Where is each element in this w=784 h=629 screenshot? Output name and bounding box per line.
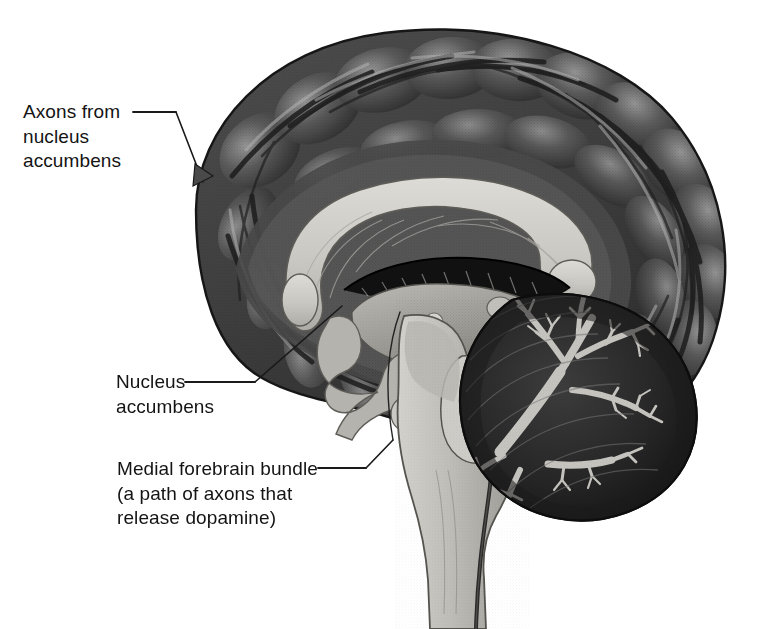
label-nucleus-accumbens: Nucleus accumbens	[116, 370, 214, 419]
label-axons-from-nucleus-accumbens: Axons from nucleus accumbens	[23, 100, 121, 174]
brain-illustration	[0, 0, 784, 629]
brain-diagram-figure: Axons from nucleus accumbens Nucleus acc…	[0, 0, 784, 629]
leader-axons	[133, 112, 213, 186]
label-medial-forebrain-bundle: Medial forebrain bundle (a path of axons…	[117, 457, 318, 531]
leader-medial-forebrain-bundle	[318, 440, 393, 468]
